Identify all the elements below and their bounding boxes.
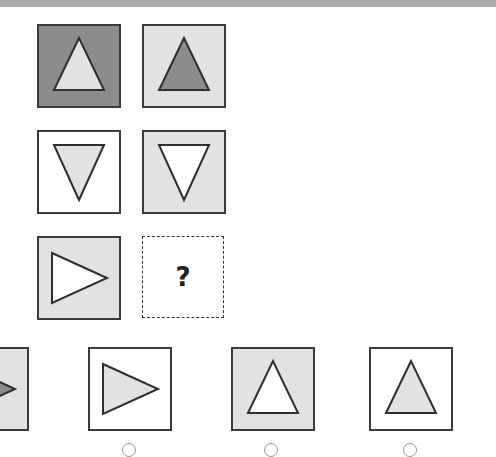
option-3-radio[interactable]	[264, 443, 278, 457]
triangle-right-icon	[90, 349, 170, 429]
option-4-radio[interactable]	[403, 443, 417, 457]
triangle-down-icon	[144, 132, 224, 212]
triangle-right-icon	[39, 238, 119, 318]
grid-cell-r1-c2	[142, 24, 226, 108]
grid-cell-r2-c2	[142, 130, 226, 214]
missing-cell: ?	[142, 236, 224, 318]
triangle-up-icon	[39, 26, 119, 106]
grid-cell-r3-c1	[37, 236, 121, 320]
option-3[interactable]	[231, 347, 315, 431]
top-bar	[0, 0, 496, 7]
option-4[interactable]	[369, 347, 453, 431]
triangle-up-icon	[371, 349, 451, 429]
triangle-up-icon	[233, 349, 313, 429]
triangle-down-icon	[39, 132, 119, 212]
option-2-radio[interactable]	[122, 443, 136, 457]
triangle-right-icon	[0, 349, 27, 429]
triangle-up-icon	[144, 26, 224, 106]
grid-cell-r1-c1	[37, 24, 121, 108]
grid-cell-r2-c1	[37, 130, 121, 214]
option-1[interactable]	[0, 347, 29, 431]
question-mark: ?	[143, 237, 223, 317]
option-2[interactable]	[88, 347, 172, 431]
